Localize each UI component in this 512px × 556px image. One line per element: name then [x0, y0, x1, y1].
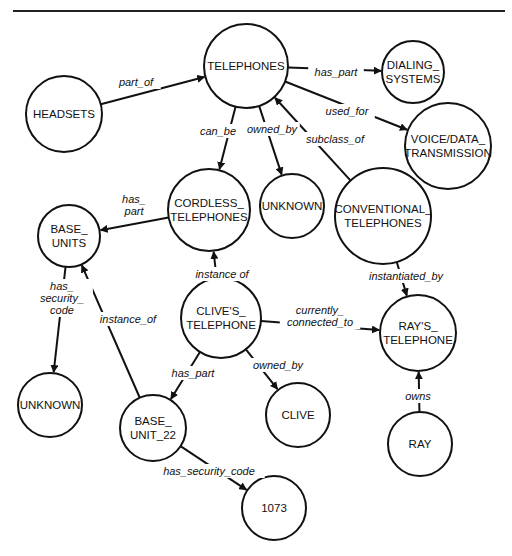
- edge-label: instantiated_by: [357, 269, 456, 283]
- edge-label-text: has_part: [172, 367, 216, 379]
- edge-telephones-to-unknown_1: [259, 106, 282, 175]
- edge-label-text: subclass_of: [306, 133, 365, 145]
- node-circle: [382, 41, 444, 103]
- node-clives-telephone: CLIVE'S_TELEPHONE: [181, 278, 261, 358]
- edge-label: has_security_code: [31, 279, 93, 317]
- edge-label: currently_connected_to: [280, 303, 360, 329]
- node-circle: [38, 205, 100, 267]
- node-label: BASE_: [134, 415, 172, 427]
- edge-label: has_security_code: [153, 464, 264, 478]
- edge-label: owned_by: [250, 358, 306, 372]
- edge-label-text: owned_by: [247, 123, 299, 135]
- node-label: CLIVE: [281, 409, 315, 421]
- edge-label-text: instance_of: [100, 313, 157, 325]
- node-base-unit-22: BASE_UNIT_22: [120, 395, 186, 461]
- edge-label: has_part: [308, 65, 364, 79]
- edge-label-text: has_: [122, 193, 146, 205]
- node-label: UNKNOWN: [262, 200, 323, 212]
- node-label: TRANSMISSION: [404, 147, 492, 159]
- node-label: DIALING_: [387, 59, 440, 71]
- node-code-1073: 1073: [242, 476, 306, 540]
- edge-label-text: security_: [40, 292, 84, 304]
- node-circle: [335, 168, 431, 264]
- node-ray: RAY: [388, 412, 452, 476]
- node-dialing-systems: DIALING_SYSTEMS: [382, 41, 444, 103]
- node-clive: CLIVE: [266, 383, 330, 447]
- edge-label-text: owns: [405, 390, 431, 402]
- node-label: TELEPHONE: [186, 319, 256, 331]
- node-unknown-2: UNKNOWN: [18, 373, 82, 437]
- node-label: BASE_: [50, 223, 88, 235]
- node-rays-telephone: RAY'S_TELEPHONE: [380, 295, 456, 371]
- node-circle: [380, 295, 456, 371]
- node-circle: [405, 103, 491, 189]
- node-label: CONVENTIONAL_: [334, 203, 432, 215]
- edge-label: has_part: [165, 366, 221, 380]
- node-conventional-telephones: CONVENTIONAL_TELEPHONES: [334, 168, 432, 264]
- edge-label: subclass_of: [298, 132, 372, 146]
- edge-label-text: owned_by: [253, 359, 305, 371]
- node-label: VOICE/DATA_: [411, 133, 486, 145]
- node-label: TELEPHONES: [344, 217, 422, 229]
- node-label: TELEPHONES: [170, 211, 248, 223]
- edge-label-text: connected_to: [287, 316, 353, 328]
- edge-label-text: has_security_code: [163, 465, 255, 477]
- edge-label: used_for: [319, 104, 375, 118]
- node-circle: [120, 395, 186, 461]
- edge-label: instance_of: [91, 312, 165, 326]
- edge-label-text: used_for: [326, 105, 370, 117]
- node-telephones: TELEPHONES: [204, 24, 288, 108]
- edge-label: owns: [403, 389, 434, 403]
- node-label: CLIVE'S_: [196, 305, 246, 317]
- edge-cordless_telephones-to-base_units: [100, 217, 168, 230]
- edge-label-text: instantiated_by: [369, 270, 444, 282]
- node-circle: [181, 278, 261, 358]
- edge-label: has_part: [119, 192, 150, 218]
- edge-label-text: can_be: [200, 125, 236, 137]
- semantic-network-diagram: TELEPHONESHEADSETSDIALING_SYSTEMSVOICE/D…: [0, 0, 512, 556]
- node-label: UNIT_22: [130, 429, 176, 441]
- edge-label-text: has_part: [315, 66, 359, 78]
- node-label: 1073: [261, 502, 287, 514]
- node-label: UNKNOWN: [20, 399, 81, 411]
- node-label: CORDLESS_: [174, 197, 244, 209]
- node-unknown-1: UNKNOWN: [260, 174, 324, 238]
- node-label: RAY'S_: [398, 320, 438, 332]
- edge-label: can_be: [196, 124, 239, 138]
- edge-label-text: currently_: [296, 304, 344, 316]
- edge-label: instance of: [185, 267, 259, 281]
- node-label: SYSTEMS: [386, 73, 441, 85]
- node-headsets: HEADSETS: [26, 76, 102, 152]
- node-label: RAY: [409, 438, 432, 450]
- node-circle: [168, 169, 250, 251]
- node-voice-data-transmission: VOICE/DATA_TRANSMISSION: [404, 103, 492, 189]
- node-label: HEADSETS: [33, 108, 95, 120]
- edge-label-text: code: [50, 304, 74, 316]
- edge-label: owned_by: [244, 122, 300, 136]
- edge-label: part_of: [111, 75, 160, 89]
- node-label: TELEPHONES: [207, 60, 285, 72]
- edge-label-text: part_of: [118, 76, 154, 88]
- edge-label-text: instance of: [195, 268, 249, 280]
- node-label: TELEPHONE: [383, 334, 453, 346]
- edge-label-text: has_: [50, 280, 74, 292]
- node-label: UNITS: [52, 237, 87, 249]
- node-base-units: BASE_UNITS: [38, 205, 100, 267]
- node-cordless-telephones: CORDLESS_TELEPHONES: [168, 169, 250, 251]
- edge-label-text: part: [124, 205, 145, 217]
